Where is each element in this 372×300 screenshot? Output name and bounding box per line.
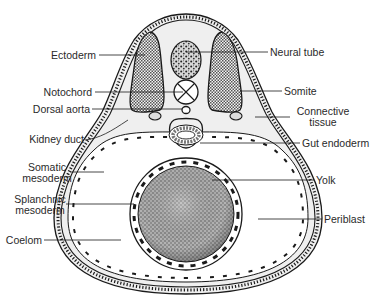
label-periblast: Periblast — [324, 214, 365, 225]
label-somite: Somite — [284, 86, 317, 97]
label-notochord: Notochord — [20, 87, 92, 98]
label-gut-endoderm: Gut endoderm — [302, 138, 369, 149]
label-somatic-line2: mesoderm — [22, 173, 72, 184]
label-splanchnic-line2: mesoderm — [12, 205, 68, 216]
label-yolk: Yolk — [316, 175, 335, 186]
label-neural-tube: Neural tube — [270, 47, 324, 58]
yolk — [130, 158, 242, 270]
label-coelom: Coelom — [4, 235, 42, 246]
label-ectoderm: Ectoderm — [30, 50, 96, 61]
label-dorsal-aorta: Dorsal aorta — [10, 104, 90, 115]
label-splanchnic-mesoderm: Splanchnic mesoderm — [12, 194, 68, 216]
kidney-duct-left — [149, 112, 161, 120]
kidney-duct-right — [230, 112, 242, 120]
dorsal-aorta — [182, 107, 190, 114]
neural-tube — [171, 41, 201, 79]
label-somatic-mesoderm: Somatic mesoderm — [22, 162, 72, 184]
embryo-cross-section-diagram — [0, 0, 372, 300]
label-kidney-duct: Kidney duct — [4, 134, 84, 145]
label-connective-tissue: Connective tissue — [290, 106, 356, 128]
label-connective-line2: tissue — [290, 117, 356, 128]
